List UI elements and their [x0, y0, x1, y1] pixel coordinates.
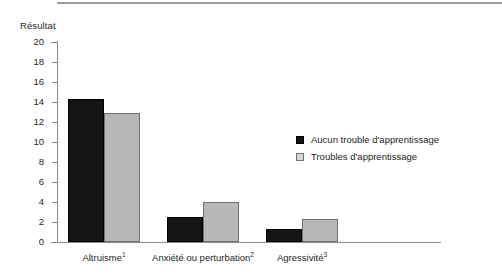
- x-axis-line: [57, 242, 441, 243]
- y-axis-tick-label: 16: [33, 76, 44, 87]
- x-axis-category-label: Altruisme1: [82, 252, 125, 263]
- y-axis-tick-label: 2: [39, 216, 44, 227]
- legend-swatch-dark: [296, 136, 304, 144]
- y-axis-tick-mark: [51, 242, 57, 243]
- category-label-text: Agressivité: [277, 252, 323, 263]
- y-axis-tick-label: 10: [33, 136, 44, 147]
- bar-no-learning-disability-2: [167, 217, 203, 242]
- y-axis-title: Résultat: [20, 20, 56, 31]
- legend-item: Troubles d'apprentissage: [296, 148, 439, 165]
- category-label-footnote: 1: [122, 251, 126, 258]
- category-label-footnote: 2: [250, 251, 254, 258]
- legend-item: Aucun trouble d'apprentissage: [296, 131, 439, 148]
- x-axis-category-label: Anxiété ou perturbation2: [152, 252, 254, 263]
- legend-swatch-light: [296, 153, 304, 161]
- category-label-footnote: 3: [323, 251, 327, 258]
- y-axis-tick-label: 12: [33, 116, 44, 127]
- bar-no-learning-disability-1: [68, 99, 104, 242]
- x-axis-category-label: Agressivité3: [277, 252, 327, 263]
- legend-item-label: Aucun trouble d'apprentissage: [311, 134, 439, 145]
- y-axis-tick-label: 4: [39, 196, 44, 207]
- bar-no-learning-disability-3: [266, 229, 302, 242]
- bar-learning-disability-1: [104, 113, 140, 242]
- y-axis-tick-label: 0: [39, 236, 44, 247]
- category-label-text: Anxiété ou perturbation: [152, 252, 250, 263]
- y-axis-tick-label: 18: [33, 56, 44, 67]
- bar-learning-disability-3: [302, 219, 338, 242]
- bar-learning-disability-2: [203, 202, 239, 242]
- legend-item-label: Troubles d'apprentissage: [311, 151, 417, 162]
- category-label-text: Altruisme: [82, 252, 122, 263]
- y-axis-tick-label: 20: [33, 36, 44, 47]
- chart-legend: Aucun trouble d'apprentissageTroubles d'…: [296, 131, 439, 165]
- y-axis-tick-label: 8: [39, 156, 44, 167]
- y-axis-tick-label: 6: [39, 176, 44, 187]
- grouped-bar-chart: Résultat 20181614121086420 Altruisme1Anx…: [0, 0, 502, 279]
- y-axis-tick-label: 14: [33, 96, 44, 107]
